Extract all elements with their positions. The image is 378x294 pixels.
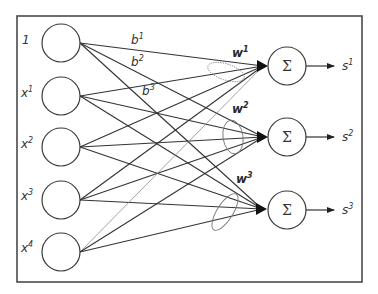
edge-x3-s2	[80, 137, 263, 200]
input-node-bias	[42, 24, 80, 62]
input-labels: 1 x1 x2 x3 x4	[20, 33, 33, 255]
output-label-s1: s1	[342, 58, 353, 73]
bias-label-2: b2	[131, 54, 144, 69]
weight-label-3: w3	[236, 171, 253, 186]
edge-x4-s3	[80, 209, 262, 252]
input-label-x1: x1	[20, 85, 33, 100]
arrowhead-icon	[256, 203, 267, 215]
input-node-x3	[42, 181, 80, 219]
input-layer	[42, 24, 80, 271]
sigma-icon: Σ	[282, 202, 292, 218]
edge-bias-s3	[80, 43, 262, 209]
input-label-x2: x2	[20, 136, 33, 151]
input-label-x4: x4	[20, 240, 33, 255]
output-arrows	[306, 66, 334, 210]
edge-x3-s3	[80, 200, 262, 209]
bias-label-3: b3	[142, 83, 155, 98]
weight-label-2: w2	[232, 101, 249, 116]
output-label-s2: s2	[342, 129, 353, 144]
edge-x1-s1	[80, 66, 263, 96]
convergence-arrowheads	[256, 60, 268, 215]
neural-network-diagram: 1 x1 x2 x3 x4 b1 b2 b3 w1 w2 w3 Σ Σ Σ s1…	[0, 0, 378, 294]
sigma-icon: Σ	[282, 129, 292, 145]
output-label-s3: s3	[342, 202, 353, 217]
edge-x4-s1	[80, 66, 263, 252]
output-labels: s1 s2 s3	[342, 58, 353, 217]
input-node-x2	[42, 128, 80, 166]
bias-label-1: b1	[131, 32, 144, 47]
summation-layer: Σ Σ Σ	[268, 47, 306, 229]
edge-x2-s2	[80, 137, 263, 147]
input-label-bias: 1	[22, 33, 30, 47]
weight-labels: w1 w2 w3	[232, 45, 253, 186]
weight-label-1: w1	[232, 45, 249, 60]
bias-labels: b1 b2 b3	[131, 32, 155, 98]
input-node-x1	[42, 77, 80, 115]
edge-x2-s3	[80, 147, 262, 209]
arrowhead-icon	[257, 60, 268, 72]
arrowhead-icon	[257, 131, 268, 143]
input-label-x3: x3	[20, 188, 33, 203]
input-node-x4	[42, 233, 80, 271]
sigma-icon: Σ	[282, 58, 292, 74]
connection-edges	[80, 43, 263, 252]
